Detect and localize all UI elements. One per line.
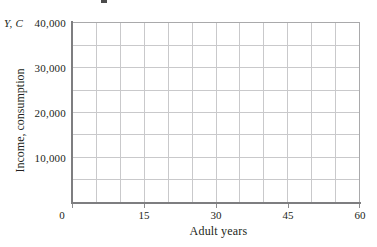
x-tick-mark-60 — [359, 204, 360, 208]
x-tick-label-15: 15 — [139, 209, 150, 221]
x-tick-mark-0 — [72, 204, 73, 208]
x-tick-mark-30 — [216, 204, 217, 208]
y-axis-symbol-label: Y, C — [4, 17, 23, 29]
plot-area — [72, 22, 360, 203]
x-tick-label-45: 45 — [283, 209, 294, 221]
x-tick-label-60: 60 — [355, 209, 366, 221]
y-tick-label-40000: 40,000 — [24, 17, 66, 29]
chart-figure: Y, C Income, consumption 40,000 30,000 2… — [0, 0, 377, 247]
x-axis-title: Adult years — [0, 224, 377, 239]
x-tick-mark-45 — [288, 204, 289, 208]
y-tick-label-10000: 10,000 — [24, 152, 66, 164]
y-axis-line — [71, 21, 73, 204]
x-tick-label-0: 0 — [59, 209, 65, 221]
x-tick-mark-15 — [144, 204, 145, 208]
grid-lines — [73, 23, 359, 202]
y-tick-label-20000: 20,000 — [24, 107, 66, 119]
cropped-title-remnant — [101, 0, 107, 3]
y-tick-label-30000: 30,000 — [24, 62, 66, 74]
x-tick-label-30: 30 — [211, 209, 222, 221]
